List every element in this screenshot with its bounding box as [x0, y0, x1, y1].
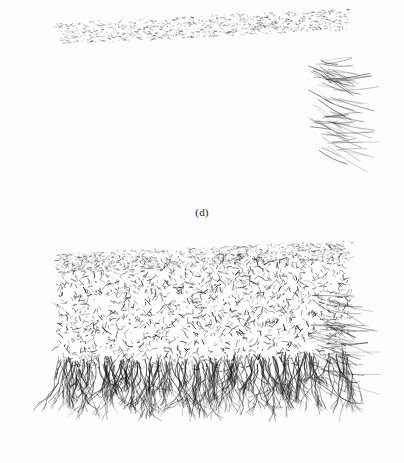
mesh-highlight-speckles	[58, 0, 350, 2]
mesh-top-face	[54, 9, 351, 44]
mesh-top-face	[54, 241, 353, 272]
mesh-svg-e	[0, 232, 404, 422]
panel-caption-d: (d)	[0, 206, 404, 218]
figure-panel-d: (d)	[0, 0, 404, 232]
mesh-render-d	[0, 0, 404, 205]
mesh-svg-d	[0, 0, 404, 205]
mesh-render-e	[0, 232, 404, 422]
figure-panel-e: (e)	[0, 232, 404, 463]
mesh-right-fringe	[309, 57, 379, 171]
mesh-hanging-filaments	[34, 352, 364, 423]
figure-container: (d) (e)	[0, 0, 404, 463]
